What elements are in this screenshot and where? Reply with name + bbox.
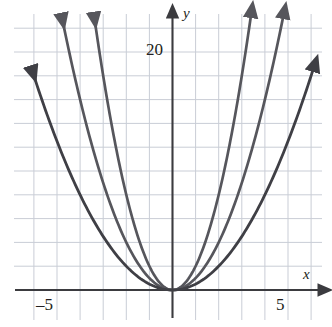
x-tick-label-neg5: –5 bbox=[36, 296, 53, 313]
y-tick-label-20: 20 bbox=[146, 41, 163, 58]
graph-canvas bbox=[0, 0, 332, 327]
x-axis-label: x bbox=[303, 267, 310, 282]
parabola-graph-figure: y x 20 –5 5 bbox=[0, 0, 332, 327]
x-tick-label-5: 5 bbox=[276, 296, 285, 313]
y-axis-label: y bbox=[183, 6, 190, 21]
